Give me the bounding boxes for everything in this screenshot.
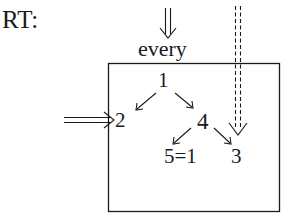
node-1: 1 [158,70,169,91]
node-2: 2 [115,110,126,131]
double-arrow-down-icon [160,8,176,38]
edge-arrow-icon [173,128,191,144]
edge-arrow-icon [136,93,156,110]
node-3: 3 [231,146,242,167]
frame-box [109,64,280,212]
double-arrow-right-icon [64,112,114,128]
edge-arrow-icon [214,128,231,144]
node-5-equals-1: 5=1 [164,146,197,167]
diagram-canvas [0,0,281,220]
edge-arrow-icon [175,93,193,108]
node-4: 4 [197,110,209,133]
dashed-double-arrow-down-icon [229,6,247,135]
